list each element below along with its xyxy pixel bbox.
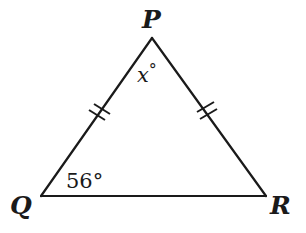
- angle-label-apex-x: x°: [137, 60, 157, 87]
- vertex-label-q: Q: [10, 191, 32, 220]
- triangle-diagram: P Q R x° 56°: [0, 0, 306, 233]
- angle-label-q-56: 56°: [66, 169, 103, 193]
- degree-symbol: °: [149, 60, 157, 79]
- vertex-label-r: R: [269, 191, 291, 220]
- side-pr: [152, 38, 266, 196]
- vertex-label-p: P: [141, 5, 162, 34]
- angle-variable: x: [137, 63, 149, 87]
